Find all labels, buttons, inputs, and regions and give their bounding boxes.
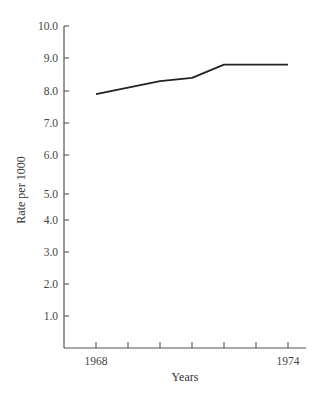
rate-line — [96, 65, 288, 95]
x-tick-label: 1968 — [85, 355, 108, 367]
x-axis: 19681974 — [64, 342, 306, 367]
x-axis-title: Years — [172, 370, 199, 384]
y-tick-label: 2.0 — [44, 278, 59, 290]
y-tick-label: 9.0 — [44, 52, 59, 64]
y-tick-label: 1.0 — [44, 310, 59, 322]
y-tick-label: 10.0 — [38, 20, 58, 32]
y-tick-label: 6.0 — [44, 149, 59, 161]
y-tick-label: 4.0 — [44, 214, 59, 226]
y-tick-label: 5.0 — [44, 188, 59, 200]
y-tick-label: 8.0 — [44, 85, 59, 97]
line-chart: 1.02.03.04.05.06.07.08.09.010.0 19681974… — [0, 0, 323, 399]
x-tick-label: 1974 — [277, 355, 300, 367]
y-tick-label: 7.0 — [44, 117, 59, 129]
y-axis-title: Rate per 1000 — [14, 156, 28, 223]
y-tick-label: 3.0 — [44, 246, 59, 258]
y-axis: 1.02.03.04.05.06.07.08.09.010.0 — [38, 20, 69, 348]
